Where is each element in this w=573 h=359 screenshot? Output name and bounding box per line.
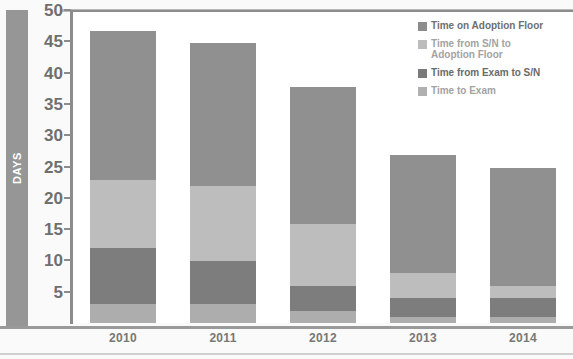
bar-segment[interactable]	[90, 180, 156, 248]
legend-item[interactable]: Time from S/N toAdoption Floor	[418, 38, 573, 60]
x-axis-tick-label: 2011	[173, 331, 273, 355]
bar-segment[interactable]	[390, 273, 456, 298]
bar-segment[interactable]	[290, 87, 356, 224]
bar-segment[interactable]	[90, 248, 156, 304]
legend-item[interactable]: Time from Exam to S/N	[418, 67, 573, 78]
legend-swatch-icon	[418, 40, 427, 49]
bar-segment[interactable]	[290, 224, 356, 286]
stacked-bar[interactable]	[490, 168, 556, 323]
x-axis-tick-label: 2010	[73, 331, 173, 355]
legend-label: Time on Adoption Floor	[431, 20, 543, 31]
bar-segment[interactable]	[190, 43, 256, 186]
y-axis-title-bar: DAYS	[6, 10, 28, 326]
x-axis-line	[0, 326, 573, 329]
y-axis-tick-label: 20	[44, 189, 63, 206]
y-axis-title: DAYS	[11, 152, 23, 184]
legend-item[interactable]: Time on Adoption Floor	[418, 20, 573, 31]
x-axis-labels: 20102011201220132014	[73, 331, 573, 355]
bar-segment[interactable]	[390, 298, 456, 317]
x-axis-tick-label: 2012	[273, 331, 373, 355]
bar-segment[interactable]	[490, 286, 556, 298]
stacked-bar[interactable]	[190, 43, 256, 323]
y-axis-tick-label: 40	[44, 64, 63, 81]
bar-segment[interactable]	[90, 31, 156, 180]
bar-slot-2012	[273, 12, 373, 323]
y-axis-tick-label: 25	[44, 158, 63, 175]
legend-item[interactable]: Time to Exam	[418, 85, 573, 96]
bar-segment[interactable]	[190, 261, 256, 305]
stacked-bar[interactable]	[90, 31, 156, 323]
bar-segment[interactable]	[490, 168, 556, 286]
legend-label: Time to Exam	[431, 85, 496, 96]
y-axis-tick-label: 35	[44, 95, 63, 112]
bar-segment[interactable]	[190, 304, 256, 323]
stacked-bar[interactable]	[290, 87, 356, 323]
chart-legend: Time on Adoption FloorTime from S/N toAd…	[418, 20, 573, 103]
bar-segment[interactable]	[390, 155, 456, 273]
legend-label: Time from S/N toAdoption Floor	[431, 38, 511, 60]
legend-swatch-icon	[418, 22, 427, 31]
bar-segment[interactable]	[290, 286, 356, 311]
legend-swatch-icon	[418, 87, 427, 96]
y-axis-tick-label: 15	[44, 221, 63, 238]
x-axis-tick-label: 2013	[373, 331, 473, 355]
bar-slot-2011	[173, 12, 273, 323]
y-axis-tick-label: 30	[44, 127, 63, 144]
x-axis-tick-label: 2014	[473, 331, 573, 355]
legend-label: Time from Exam to S/N	[431, 67, 540, 78]
stacked-bar[interactable]	[390, 155, 456, 323]
bar-slot-2010	[73, 12, 173, 323]
stacked-bar-chart: DAYS 5045403530252015105 201020112012201…	[0, 0, 573, 359]
bar-segment[interactable]	[90, 304, 156, 323]
legend-swatch-icon	[418, 69, 427, 78]
bottom-divider-rule	[0, 353, 573, 355]
bar-segment[interactable]	[190, 186, 256, 261]
y-axis-tick-label: 45	[44, 33, 63, 50]
y-axis: 5045403530252015105	[33, 4, 71, 326]
bar-segment[interactable]	[290, 311, 356, 323]
bar-segment[interactable]	[490, 298, 556, 317]
y-axis-tick-label: 5	[54, 283, 63, 300]
y-axis-tick-label: 50	[44, 2, 63, 19]
bar-segment[interactable]	[490, 317, 556, 323]
y-axis-tick-label: 10	[44, 252, 63, 269]
bar-segment[interactable]	[390, 317, 456, 323]
